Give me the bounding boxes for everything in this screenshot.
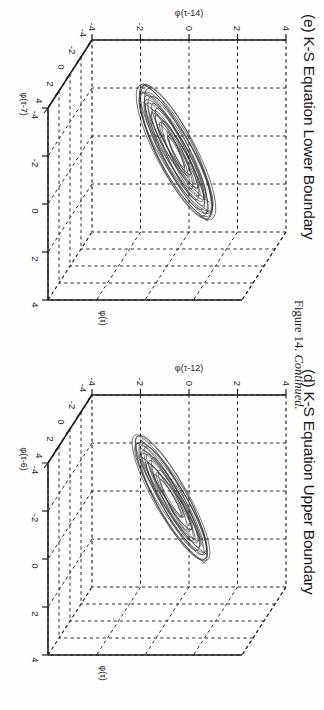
y-tick-label: -2	[30, 514, 41, 522]
axis-lines	[48, 395, 286, 655]
panel-d-upper-boundary: (d) K-S Equation Upper Boundary	[0, 355, 324, 710]
panel-e-lower-boundary: (e) K-S Equation Lower Boundary	[0, 0, 324, 355]
panel-e-plot: 4 2 0 -2 -4 φ(τ-14) -4 -2	[0, 0, 324, 355]
plot-3d-e: 4 2 0 -2 -4 φ(τ-14) -4 -2	[0, 0, 324, 355]
x-axis-label: φ(τ-7)	[19, 92, 29, 115]
attractor-trajectory-d	[119, 426, 224, 571]
z-axis-tick-labels: 4 2 0 -2 -4	[87, 23, 292, 31]
attractor-trajectory-e	[121, 75, 230, 229]
z-tick-label: 4	[281, 26, 292, 31]
x-tick-label: 4	[34, 98, 45, 103]
z-tick-label: 2	[232, 381, 243, 386]
x-tick-label: 2	[45, 81, 56, 86]
y-axis-label: φ(τ)	[98, 310, 108, 325]
figure-page: (e) K-S Equation Lower Boundary	[0, 0, 324, 710]
z-tick-label: 2	[232, 26, 243, 31]
y-axis-label: φ(τ)	[98, 665, 108, 680]
box-grid-lines	[48, 40, 286, 300]
z-tick-label: 4	[281, 381, 292, 386]
y-tick-label: 0	[30, 208, 41, 213]
x-axis-label: φ(τ-6)	[19, 447, 29, 470]
z-tick-label: -2	[135, 378, 146, 386]
figure-caption-continued: Continued.	[292, 355, 306, 410]
x-tick-label: -2	[67, 401, 78, 409]
box-outline	[48, 395, 286, 655]
x-tick-label: 0	[56, 64, 67, 69]
axis-lines	[48, 40, 286, 300]
panel-d-plot: 4 2 0 -2 -4 φ(τ-12) -4 -2 0	[0, 355, 324, 710]
y-tick-label: 4	[30, 302, 41, 307]
x-tick-label: 4	[34, 453, 45, 458]
x-tick-label: -4	[78, 384, 89, 392]
y-tick-label: -2	[30, 159, 41, 167]
x-tick-label: -2	[67, 46, 78, 54]
y-tick-label: 0	[30, 563, 41, 568]
y-tick-label: -4	[30, 466, 41, 474]
y-tick-label: -4	[30, 111, 41, 119]
figure-caption-number: Figure 14.	[292, 300, 306, 351]
z-tick-label: -2	[135, 23, 146, 31]
y-tick-label: 2	[30, 256, 41, 261]
box-grid-lines	[48, 395, 286, 655]
x-tick-label: -4	[78, 29, 89, 37]
z-axis-tick-labels: 4 2 0 -2 -4	[87, 378, 292, 386]
z-axis-label: φ(τ-14)	[175, 8, 203, 18]
z-axis-ticks	[92, 389, 286, 395]
figure-caption: Figure 14. Continued.	[291, 300, 306, 410]
y-tick-label: 2	[30, 611, 41, 616]
z-tick-label: 0	[184, 26, 195, 31]
z-axis-ticks	[92, 34, 286, 40]
z-axis-label: φ(τ-12)	[175, 363, 203, 373]
y-axis-ticks	[42, 463, 48, 655]
y-tick-label: 4	[30, 657, 41, 662]
y-axis-ticks	[42, 108, 48, 300]
y-axis-tick-labels: -4 -2 0 2 4	[30, 466, 41, 663]
y-axis-tick-labels: -4 -2 0 2 4	[30, 111, 41, 308]
x-tick-label: 2	[45, 436, 56, 441]
plot-3d-d: 4 2 0 -2 -4 φ(τ-12) -4 -2 0	[0, 355, 324, 710]
z-tick-label: 0	[184, 381, 195, 386]
box-outline	[48, 40, 286, 300]
x-tick-label: 0	[56, 419, 67, 424]
